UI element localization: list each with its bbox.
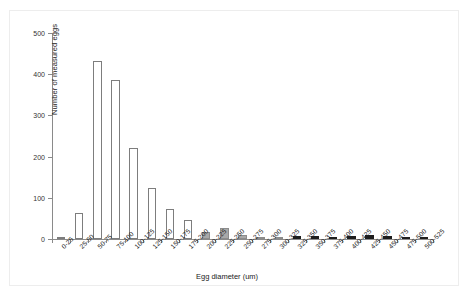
y-axis-tick-label: 300 xyxy=(33,112,45,119)
bar-25-50 xyxy=(75,213,84,239)
y-axis-title: Number of measured eggs xyxy=(50,24,59,115)
bar-75-100 xyxy=(111,80,120,239)
y-axis-tick xyxy=(48,157,52,158)
x-axis-title: Egg diameter (um) xyxy=(196,272,258,281)
y-axis-tick-label: 400 xyxy=(33,71,45,78)
y-axis-tick-label: 0 xyxy=(41,236,45,243)
y-axis-tick xyxy=(48,198,52,199)
bar-0-25 xyxy=(57,237,66,239)
y-axis-tick xyxy=(48,115,52,116)
bar-100-125 xyxy=(129,148,138,239)
y-axis-tick-label: 500 xyxy=(33,30,45,37)
x-axis-tick xyxy=(52,239,53,243)
plot-area: 0100200300400500 0-2525-5050-7575-100100… xyxy=(52,33,433,239)
bar-50-75 xyxy=(93,61,102,239)
histogram-figure: 0100200300400500 0-2525-5050-7575-100100… xyxy=(0,0,468,292)
y-axis-tick-label: 200 xyxy=(33,153,45,160)
y-axis-tick-label: 100 xyxy=(33,194,45,201)
